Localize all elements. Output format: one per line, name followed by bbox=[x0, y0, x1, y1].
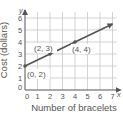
y-tick-label: 3 bbox=[18, 50, 22, 59]
y-tick-label: 0 bbox=[18, 83, 22, 92]
y-tick-label: 5 bbox=[18, 26, 22, 35]
x-tick-label: 4 bbox=[73, 92, 77, 101]
y-axis-letter: y bbox=[18, 6, 24, 15]
point-label: (2, 3) bbox=[34, 44, 53, 53]
y-axis-title: Cost (dollars) bbox=[0, 22, 9, 79]
x-tick-label: 7 bbox=[110, 92, 114, 101]
data-point bbox=[73, 40, 77, 44]
point-label: (0, 2) bbox=[27, 70, 46, 79]
data-point bbox=[23, 64, 27, 68]
y-tick-label: 1 bbox=[18, 74, 22, 83]
y-tick-label: 4 bbox=[18, 38, 22, 47]
x-tick-label: 1 bbox=[35, 92, 39, 101]
x-tick-label: 6 bbox=[98, 92, 102, 101]
chart-canvas: 012345670123456 (0, 2)(2, 3)(4, 4) Numbe… bbox=[0, 0, 123, 115]
x-tick-label: 2 bbox=[48, 92, 52, 101]
x-axis-letter: x bbox=[116, 90, 121, 99]
x-tick-label: 5 bbox=[85, 92, 89, 101]
data-points: (0, 2)(2, 3)(4, 4) bbox=[23, 40, 95, 79]
x-tick-label: 3 bbox=[60, 92, 64, 101]
point-label: (4, 4) bbox=[72, 45, 91, 54]
x-axis-title: Number of bracelets bbox=[31, 102, 117, 113]
y-tick-label: 2 bbox=[18, 62, 22, 71]
chart: 012345670123456 (0, 2)(2, 3)(4, 4) Numbe… bbox=[0, 0, 123, 115]
x-tick-label: 0 bbox=[25, 92, 29, 101]
y-tick-label: 6 bbox=[18, 14, 22, 23]
